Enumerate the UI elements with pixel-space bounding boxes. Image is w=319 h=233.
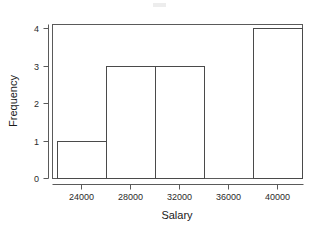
histogram-figure: 0 1 2 3 4 24000 28000 32000 36000 40000 … — [0, 0, 319, 233]
y-tick-label-2: 2 — [34, 99, 39, 109]
y-axis-title: Frequency — [7, 75, 19, 127]
x-tick-label-32000: 32000 — [167, 192, 192, 202]
y-tick-label-3: 3 — [34, 62, 39, 72]
x-tick-label-28000: 28000 — [118, 192, 143, 202]
x-tick-label-40000: 40000 — [265, 192, 290, 202]
y-tick-label-1: 1 — [34, 137, 39, 147]
x-tick-label-36000: 36000 — [216, 192, 241, 202]
x-tick-label-24000: 24000 — [69, 192, 94, 202]
scan-artifact — [153, 3, 166, 7]
y-tick-label-4: 4 — [34, 24, 39, 34]
y-tick-label-0: 0 — [34, 174, 39, 184]
x-axis-title: Salary — [161, 209, 193, 221]
